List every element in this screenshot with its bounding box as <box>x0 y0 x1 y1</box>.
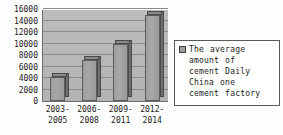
bar-side-face <box>160 11 164 97</box>
y-axis-tick-label: 6000 <box>19 64 38 72</box>
y-axis-tick-label: 8000 <box>19 52 38 60</box>
bar-front-face <box>82 60 97 101</box>
y-axis-tick-label: 2000 <box>19 87 38 95</box>
x-axis-tick-label-line: 2014 <box>134 115 172 126</box>
bar-front-face <box>113 44 128 102</box>
y-axis-tick-label: 12000 <box>14 29 38 37</box>
y-axis-tick-label: 14000 <box>14 18 38 26</box>
legend-label-line: China one <box>189 77 260 88</box>
y-axis-tick-label: 10000 <box>14 41 38 49</box>
bar-side-face <box>97 56 101 97</box>
legend-label: The averageamount ofcement DailyChina on… <box>189 44 260 99</box>
y-axis-tick-label: 0 <box>33 98 38 106</box>
bar <box>145 11 160 101</box>
y-axis-tick-label: 4000 <box>19 75 38 83</box>
x-axis-tick-label-line: 2012- <box>134 104 172 115</box>
legend-item: The averageamount ofcement DailyChina on… <box>179 44 276 99</box>
bar-side-face <box>128 40 132 98</box>
bar-chart: 0200040006000800010000120001400016000 20… <box>0 0 283 135</box>
legend-swatch-icon <box>179 46 186 53</box>
bars-layer <box>43 10 168 101</box>
legend: The averageamount ofcement DailyChina on… <box>174 40 280 106</box>
y-axis-tick-label: 16000 <box>14 6 38 14</box>
legend-label-line: cement factory <box>189 88 260 99</box>
gridline <box>43 8 168 9</box>
bar <box>50 73 65 101</box>
bar <box>82 56 97 101</box>
legend-label-line: The average <box>189 44 260 55</box>
legend-label-line: amount of <box>189 55 260 66</box>
legend-label-line: cement Daily <box>189 66 260 77</box>
plot-area <box>42 10 168 102</box>
bar-front-face <box>50 77 65 101</box>
bar <box>113 40 128 102</box>
y-axis-labels: 0200040006000800010000120001400016000 <box>0 10 40 102</box>
x-axis-tick-label: 2012-2014 <box>134 104 172 126</box>
bar-front-face <box>145 15 160 101</box>
